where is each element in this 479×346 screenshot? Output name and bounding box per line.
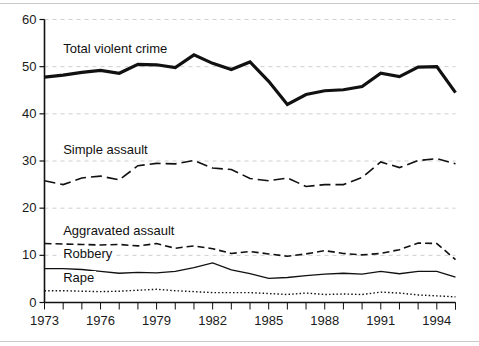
y-tick-label-20: 20 bbox=[7, 201, 37, 214]
series-line-simple-assault bbox=[45, 159, 456, 187]
x-tick-label-1985: 1985 bbox=[247, 314, 291, 327]
series-label-rape: Rape bbox=[61, 271, 96, 284]
series-label-total-violent-crime: Total violent crime bbox=[61, 42, 169, 55]
x-tick-label-1976: 1976 bbox=[79, 314, 123, 327]
x-tick-label-1994: 1994 bbox=[415, 314, 459, 327]
y-tick-label-50: 50 bbox=[7, 60, 37, 73]
x-tick-label-1979: 1979 bbox=[135, 314, 179, 327]
y-tick-label-40: 40 bbox=[7, 107, 37, 120]
series-label-robbery: Robbery bbox=[61, 247, 114, 260]
series-line-total-violent-crime bbox=[45, 55, 456, 105]
series-line-robbery bbox=[45, 263, 456, 279]
y-tick-label-0: 0 bbox=[7, 296, 37, 309]
x-tick-label-1973: 1973 bbox=[23, 314, 67, 327]
y-tick-label-10: 10 bbox=[7, 248, 37, 261]
chart-figure: 0102030405060 19731976197919821985198819… bbox=[0, 0, 479, 346]
x-tick-label-1982: 1982 bbox=[191, 314, 235, 327]
series-label-aggravated-assault: Aggravated assault bbox=[61, 224, 176, 237]
series-line-rape bbox=[45, 289, 456, 297]
y-tick-label-30: 30 bbox=[7, 154, 37, 167]
y-tick-label-60: 60 bbox=[7, 13, 37, 26]
series-label-simple-assault: Simple assault bbox=[61, 143, 150, 156]
x-axis-ticks bbox=[45, 303, 456, 310]
x-tick-label-1991: 1991 bbox=[359, 314, 403, 327]
x-tick-label-1988: 1988 bbox=[303, 314, 347, 327]
